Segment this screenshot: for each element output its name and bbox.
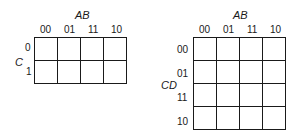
col-label: 10 (111, 25, 122, 35)
row-variable-label: C (15, 57, 23, 67)
col-label: 11 (88, 25, 98, 35)
col-label: 01 (64, 25, 75, 35)
kmap-cell (35, 61, 58, 84)
kmap-cell (58, 38, 81, 61)
kmap-cell (263, 38, 286, 61)
row-label: 11 (177, 93, 187, 103)
kmap-cell (104, 61, 127, 84)
kmap-cell (217, 84, 240, 107)
col-label: 11 (247, 25, 257, 35)
kmap-cell (240, 107, 263, 130)
col-variable-label: AB (233, 10, 248, 20)
col-label: 01 (223, 25, 234, 35)
kmap-3-grid (34, 37, 127, 84)
kmap-cell (263, 61, 286, 84)
kmap-cell (240, 84, 263, 107)
row-label: 00 (177, 45, 188, 55)
kmap-cell (81, 61, 104, 84)
kmap-cell (194, 84, 217, 107)
col-label: 10 (270, 25, 281, 35)
kmap-cell (58, 61, 81, 84)
row-label: 0 (25, 43, 31, 53)
row-label: 10 (177, 117, 188, 127)
kmap-cell (263, 107, 286, 130)
row-variable-label: CD (161, 80, 177, 90)
kmap-cell (217, 107, 240, 130)
kmap-cell (104, 38, 127, 61)
col-variable-label: AB (75, 10, 90, 20)
col-label: 00 (199, 25, 210, 35)
row-label: 01 (177, 69, 188, 79)
kmap-4-grid (193, 37, 286, 130)
kmap-cell (194, 61, 217, 84)
kmap-cell (217, 61, 240, 84)
kmap-cell (240, 38, 263, 61)
row-label: 1 (26, 67, 32, 77)
kmap-cell (81, 38, 104, 61)
kmap-cell (263, 84, 286, 107)
kmap-cell (35, 38, 58, 61)
kmap-cell (194, 38, 217, 61)
kmap-cell (240, 61, 263, 84)
kmap-cell (217, 38, 240, 61)
col-label: 00 (40, 25, 51, 35)
kmap-cell (194, 107, 217, 130)
